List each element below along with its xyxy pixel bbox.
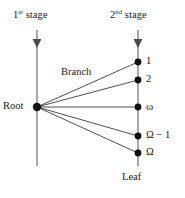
stage-2-ordinal-suffix: nd bbox=[115, 8, 122, 15]
tree-diagram-canvas bbox=[0, 0, 185, 198]
stage-axis-arrowheads bbox=[33, 39, 143, 48]
tree-diagram: 1st stage 2nd stage Root Branch Leaf 1 2… bbox=[0, 0, 185, 198]
branch-edge-big-omega-minus-1 bbox=[37, 107, 138, 136]
stage-1-arrow-icon bbox=[33, 39, 42, 48]
leaf-node-label-big-omega: Ω bbox=[146, 147, 154, 158]
leaf-node-label-big-omega-minus-1: Ω − 1 bbox=[146, 130, 170, 141]
leaf-label: Leaf bbox=[122, 172, 141, 183]
leaf-node-label-2: 2 bbox=[146, 74, 151, 85]
stage-2-title: 2nd stage bbox=[110, 10, 147, 21]
branch-label: Branch bbox=[61, 67, 91, 78]
stage-2-arrow-icon bbox=[134, 39, 143, 48]
leaf-node-1 bbox=[135, 59, 142, 66]
leaf-node-big-omega bbox=[135, 150, 142, 157]
leaf-node-2 bbox=[135, 77, 142, 84]
branch-edge-big-omega bbox=[37, 107, 138, 153]
stage-1-word: stage bbox=[26, 9, 48, 20]
leaf-node-omega bbox=[135, 104, 142, 111]
leaf-node-label-1: 1 bbox=[146, 56, 151, 67]
leaf-node-label-omega: ω bbox=[146, 101, 153, 112]
stage-2-word: stage bbox=[125, 9, 147, 20]
stage-1-ordinal-suffix: st bbox=[18, 8, 23, 15]
leaf-node-big-omega-minus-1 bbox=[135, 133, 142, 140]
root-node bbox=[33, 103, 41, 111]
stage-1-title: 1st stage bbox=[13, 10, 48, 21]
stage-axes bbox=[37, 30, 138, 166]
root-label: Root bbox=[3, 101, 23, 112]
